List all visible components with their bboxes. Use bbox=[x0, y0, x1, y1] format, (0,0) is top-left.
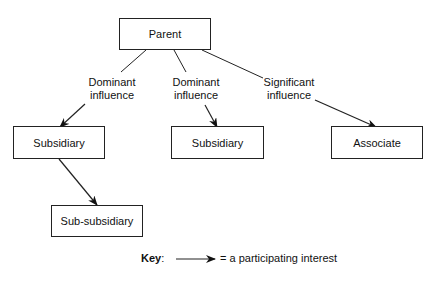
edge-label-middle-line1: Dominant bbox=[156, 76, 236, 89]
node-subsidiary-left-label: Subsidiary bbox=[33, 137, 84, 149]
node-sub-subsidiary-label: Sub-subsidiary bbox=[61, 215, 134, 227]
edge-middle-upper bbox=[174, 50, 186, 72]
edge-label-left: Dominant influence bbox=[72, 76, 152, 102]
edge-label-left-line1: Dominant bbox=[72, 76, 152, 89]
key-colon: : bbox=[161, 252, 164, 264]
edge-label-right: Significant influence bbox=[249, 76, 329, 102]
edge-right-upper bbox=[202, 50, 263, 78]
edge-left-lower bbox=[60, 104, 85, 127]
node-associate: Associate bbox=[331, 126, 423, 159]
key-legend: Key: bbox=[141, 252, 164, 264]
edge-sub-to-subsub bbox=[59, 159, 97, 205]
key-label: Key bbox=[141, 252, 161, 264]
node-sub-subsidiary: Sub-subsidiary bbox=[51, 205, 143, 237]
node-subsidiary-left: Subsidiary bbox=[13, 126, 105, 159]
edge-label-right-line1: Significant bbox=[249, 76, 329, 89]
edge-right-lower bbox=[315, 100, 376, 127]
edge-label-right-line2: influence bbox=[249, 89, 329, 102]
edge-label-middle: Dominant influence bbox=[156, 76, 236, 102]
node-parent: Parent bbox=[119, 18, 211, 50]
key-description: = a participating interest bbox=[220, 252, 337, 264]
edge-label-middle-line2: influence bbox=[156, 89, 236, 102]
edge-label-left-line2: influence bbox=[72, 89, 152, 102]
node-associate-label: Associate bbox=[353, 137, 401, 149]
edge-middle-lower bbox=[205, 105, 217, 127]
node-subsidiary-middle: Subsidiary bbox=[171, 126, 264, 159]
edge-left-upper bbox=[121, 50, 146, 72]
node-subsidiary-middle-label: Subsidiary bbox=[192, 137, 243, 149]
node-parent-label: Parent bbox=[149, 28, 181, 40]
